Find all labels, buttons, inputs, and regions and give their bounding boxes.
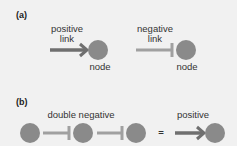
node-a-negative xyxy=(176,40,196,60)
node-b-4 xyxy=(205,123,225,143)
node-b-3 xyxy=(126,123,146,143)
node-b-1 xyxy=(20,123,40,143)
node-a-positive xyxy=(88,40,108,60)
negative-link-b-2 xyxy=(97,126,122,140)
negative-link-inhibitor xyxy=(136,43,172,57)
positive-link-arrow xyxy=(50,44,87,56)
positive-link-b xyxy=(175,127,204,139)
negative-link-b-1 xyxy=(43,126,69,140)
diagram-graphics xyxy=(0,0,237,146)
node-b-2 xyxy=(73,123,93,143)
